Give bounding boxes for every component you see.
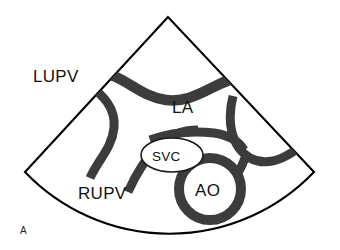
label-lupv: LUPV: [33, 67, 79, 86]
label-ao: AO: [195, 181, 220, 200]
label-svc: SVC: [152, 149, 180, 164]
label-rupv: RUPV: [78, 184, 127, 203]
panel-label: A: [20, 225, 27, 236]
label-la: LA: [172, 98, 194, 117]
figure-root: LUPV RUPV LA SVC AO A: [0, 0, 340, 250]
ultrasound-sector-diagram: LUPV RUPV LA SVC AO A: [0, 0, 340, 250]
sector-outline: [25, 17, 314, 234]
